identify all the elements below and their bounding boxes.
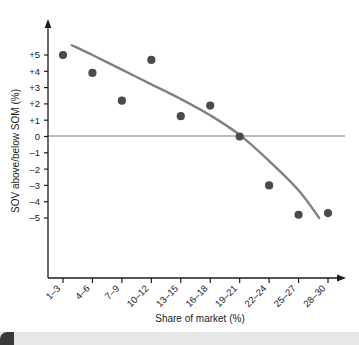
footer-corner-mark [0, 332, 14, 345]
y-tick-label: –5 [29, 212, 40, 223]
data-point-marker [236, 132, 244, 140]
data-point-marker [206, 101, 214, 109]
data-point-marker [59, 51, 67, 59]
y-tick-label: +4 [29, 66, 40, 77]
y-tick-label: –3 [29, 180, 40, 191]
y-tick-label: +2 [29, 98, 40, 109]
footer-band [0, 332, 359, 345]
data-point-marker [265, 181, 273, 189]
chart-figure: +5+4+3+2+10–1–2–3–4–5 1–34–67–910–1213–1… [0, 0, 359, 345]
y-axis-title: SOV above/below SOM (%) [10, 89, 21, 213]
y-tick-label: +5 [29, 49, 40, 60]
y-tick-label: –4 [29, 196, 40, 207]
data-point-marker [147, 56, 155, 64]
data-point-marker [294, 211, 302, 219]
y-tick-label: –2 [29, 164, 40, 175]
data-point-marker [177, 112, 185, 120]
scatter-plot-canvas: +5+4+3+2+10–1–2–3–4–5 1–34–67–910–1213–1… [0, 0, 359, 345]
y-tick-label: +1 [29, 115, 40, 126]
data-point-marker [324, 209, 332, 217]
y-tick-label: 0 [35, 131, 40, 142]
y-tick-label: –1 [29, 147, 40, 158]
data-point-marker [118, 97, 126, 105]
x-axis-title: Share of market (%) [155, 313, 244, 324]
y-tick-label: +3 [29, 82, 40, 93]
data-point-marker [88, 69, 96, 77]
